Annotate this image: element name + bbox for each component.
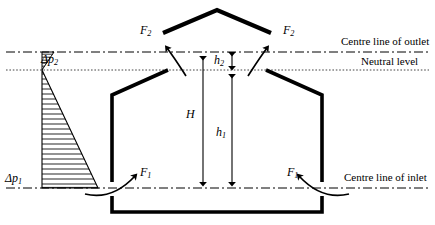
force-F2-right-subscript: 2: [290, 29, 294, 38]
dimension-h1-subscript: 1: [222, 131, 226, 140]
diagram-svg: [0, 0, 435, 225]
pressure-delta-p1-symbol: Δp: [5, 171, 18, 185]
force-F1-left-subscript: 1: [147, 171, 151, 180]
force-F2-left-subscript: 2: [147, 29, 151, 38]
label-neutral-level: Neutral level: [361, 56, 418, 67]
label-pressure-delta-p1: Δp1: [5, 172, 22, 184]
pressure-profile-lower: [40, 70, 102, 188]
label-centre-line-of-inlet: Centre line of inlet: [344, 172, 427, 183]
building-floor-slab: [112, 196, 322, 212]
dimension-h2-subscript: 2: [220, 59, 224, 68]
force-arrow-F1-right: [299, 176, 349, 195]
label-force-F2-left: F2: [140, 24, 151, 36]
dimension-H-symbol: H: [186, 107, 195, 121]
label-force-F2-right: F2: [283, 24, 294, 36]
building-roof: [163, 10, 271, 33]
label-dimension-h2: h2: [214, 54, 224, 66]
label-force-F1-right: F1: [287, 166, 298, 178]
label-dimension-H: H: [186, 108, 195, 120]
label-dimension-h1: h1: [216, 126, 226, 138]
diagram-canvas: Centre line of outlet Neutral level Cent…: [0, 0, 435, 225]
label-force-F1-left: F1: [140, 166, 151, 178]
pressure-delta-p2-subscript: 2: [54, 58, 58, 67]
label-centre-line-of-outlet: Centre line of outlet: [341, 36, 429, 47]
pressure-delta-p1-subscript: 1: [18, 177, 22, 186]
force-F1-right-subscript: 1: [294, 171, 298, 180]
label-pressure-delta-p2: Δp2: [41, 53, 58, 65]
pressure-delta-p2-symbol: Δp: [41, 52, 54, 66]
